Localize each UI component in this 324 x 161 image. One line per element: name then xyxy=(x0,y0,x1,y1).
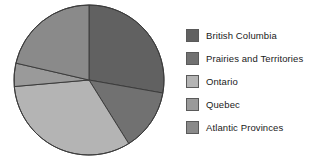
pie-chart-figure: British Columbia Prairies and Territorie… xyxy=(0,0,324,161)
legend-swatch-icon-atlantic-provinces xyxy=(186,121,199,134)
legend-item-ontario[interactable]: Ontario xyxy=(186,75,324,88)
chart-legend: British Columbia Prairies and Territorie… xyxy=(186,0,324,161)
pie-chart-svg xyxy=(0,0,180,161)
legend-swatch-icon-prairies-and-territories xyxy=(186,52,199,65)
pie-slice-british-columbia[interactable] xyxy=(89,5,164,93)
legend-label-prairies-and-territories: Prairies and Territories xyxy=(206,53,303,64)
legend-label-quebec: Quebec xyxy=(206,99,240,110)
legend-item-atlantic-provinces[interactable]: Atlantic Provinces xyxy=(186,121,324,134)
legend-item-quebec[interactable]: Quebec xyxy=(186,98,324,111)
legend-item-british-columbia[interactable]: British Columbia xyxy=(186,29,324,42)
legend-swatch-icon-ontario xyxy=(186,75,199,88)
legend-label-british-columbia: British Columbia xyxy=(206,30,277,41)
legend-swatch-icon-british-columbia xyxy=(186,29,199,42)
legend-label-ontario: Ontario xyxy=(206,76,238,87)
legend-swatch-icon-quebec xyxy=(186,98,199,111)
pie-chart-plot-area xyxy=(0,0,180,161)
legend-item-prairies-and-territories[interactable]: Prairies and Territories xyxy=(186,52,324,65)
legend-label-atlantic-provinces: Atlantic Provinces xyxy=(206,122,283,133)
